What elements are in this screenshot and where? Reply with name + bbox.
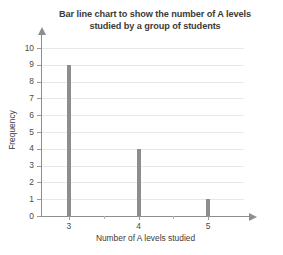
bar-series [41,48,253,216]
y-axis-tick-label: 5 [20,128,34,137]
y-axis-tick-label: 4 [20,144,34,153]
bar [206,199,210,216]
y-axis-tick-label: 6 [20,111,34,120]
x-axis-tick [69,216,70,220]
y-axis-tick-label: 7 [20,94,34,103]
bar [137,149,141,216]
y-axis-tick-label: 0 [20,212,34,221]
y-axis-tick-label-wrap: 3 [18,161,34,170]
y-axis-tick-label-wrap: 8 [18,77,34,86]
y-axis-tick-label: 3 [20,161,34,170]
x-axis-tick-label: 3 [59,221,79,231]
x-axis-tick-label: 5 [198,221,218,231]
bar [67,65,71,216]
y-axis-tick-label-wrap: 7 [18,94,34,103]
y-axis-tick-label: 2 [20,178,34,187]
x-axis-minor-tick [173,216,174,219]
y-axis-title: Frequency [7,100,17,160]
chart-title-line-2: studied by a group of students [40,20,270,32]
y-axis-tick-label-wrap: 0 [18,212,34,221]
y-axis-tick-label-wrap: 10 [18,44,34,53]
x-axis-minor-tick [104,216,105,219]
x-axis-line [41,216,250,217]
x-axis-tick [208,216,209,220]
y-axis-tick [37,216,41,217]
y-axis-arrow-icon [38,27,46,35]
x-axis-tick [139,216,140,220]
y-axis-tick-label-wrap: 5 [18,128,34,137]
chart-title-line-1: Bar line chart to show the number of A l… [40,8,270,20]
x-axis-title: Number of A levels studied [41,233,250,243]
y-axis-tick-label-wrap: 9 [18,60,34,69]
chart-title: Bar line chart to show the number of A l… [40,8,270,32]
y-axis-tick-label: 1 [20,195,34,204]
bar-line-chart: Bar line chart to show the number of A l… [0,0,283,255]
y-axis-tick-label: 9 [20,60,34,69]
y-axis-tick-label: 10 [20,44,34,53]
y-axis-tick-label-wrap: 4 [18,144,34,153]
x-axis-tick-label: 4 [129,221,149,231]
y-axis-tick-label-wrap: 1 [18,195,34,204]
y-axis-tick-label-wrap: 2 [18,178,34,187]
y-axis-tick-label: 8 [20,77,34,86]
y-axis-tick-label-wrap: 6 [18,111,34,120]
